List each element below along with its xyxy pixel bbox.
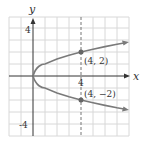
y-tick-4: 4 xyxy=(25,25,31,35)
point-upper-label: (4, 2) xyxy=(84,56,108,66)
point-upper xyxy=(79,50,84,55)
lower-curve-arrow-icon xyxy=(122,107,129,112)
axes xyxy=(9,22,126,136)
y-axis-arrow-icon xyxy=(31,18,36,24)
x-tick-4: 4 xyxy=(78,78,84,88)
upper-branch-curve xyxy=(33,43,124,76)
y-tick-neg4: -4 xyxy=(19,120,28,130)
upper-curve-arrow-icon xyxy=(122,41,129,46)
y-axis-label: y xyxy=(28,3,36,16)
parabola-chart: y x 4 -4 4 (4, 2) (4, −2) xyxy=(0,0,148,145)
point-lower xyxy=(79,98,84,103)
x-axis-label: x xyxy=(133,70,140,83)
point-lower-label: (4, −2) xyxy=(84,89,116,99)
